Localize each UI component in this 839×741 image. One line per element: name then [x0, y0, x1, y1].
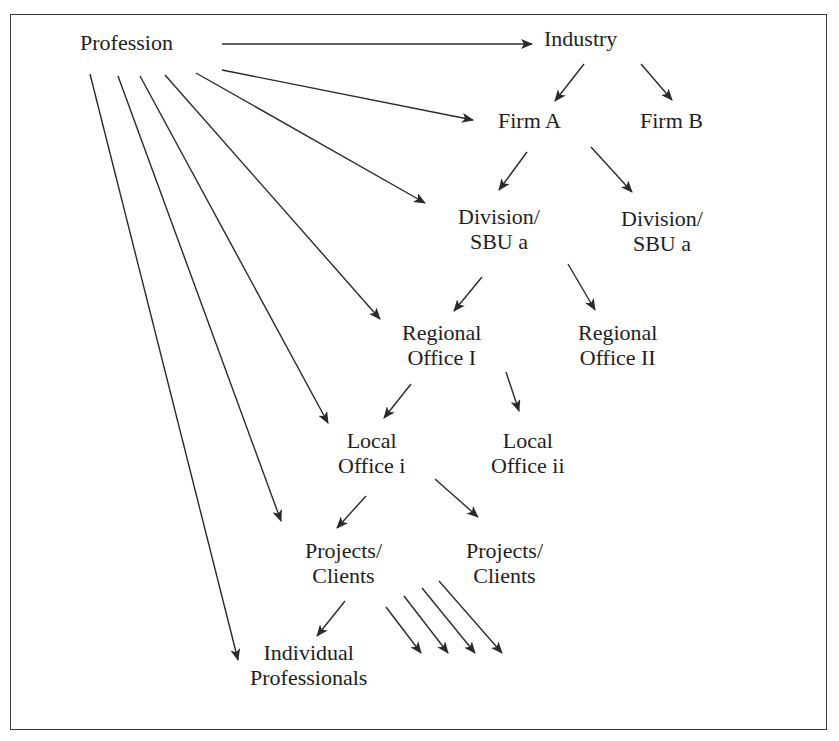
node-label-line1: Division/	[621, 206, 703, 231]
node-label-line2: Office I	[402, 345, 481, 370]
node-profession: Profession	[80, 30, 173, 55]
node-regional-office-2: Regional Office II	[578, 320, 657, 370]
arrow-profession-regional	[165, 75, 380, 319]
node-local-office-ii: Local Office ii	[491, 428, 565, 478]
arrow-industry-firm-a	[555, 64, 584, 101]
node-label-line1: Regional	[402, 320, 481, 345]
node-label-line1: Projects/	[305, 538, 382, 563]
node-firm-a: Firm A	[498, 108, 561, 133]
node-label-line1: Regional	[578, 320, 657, 345]
node-label-line2: Clients	[466, 563, 543, 588]
node-division-left: Division/ SBU a	[458, 204, 540, 254]
node-individual-professionals: Individual Professionals	[250, 640, 367, 690]
node-label-line1: Division/	[458, 204, 540, 229]
node-division-right: Division/ SBU a	[621, 206, 703, 256]
node-projects-left: Projects/ Clients	[305, 538, 382, 588]
node-regional-office-1: Regional Office I	[402, 320, 481, 370]
arrow-profession-firm-a	[222, 70, 473, 120]
node-industry: Industry	[544, 26, 617, 51]
node-label-line1: Projects/	[466, 538, 543, 563]
arrow-profession-division	[196, 73, 425, 203]
arrow-division-regional-2	[568, 264, 595, 310]
arrow-local-projects-left	[337, 496, 366, 528]
node-label: Firm B	[640, 108, 703, 133]
node-local-office-i: Local Office i	[338, 428, 405, 478]
arrow-regional-local-i	[384, 384, 411, 418]
node-label-line2: Office i	[338, 453, 405, 478]
arrow-projects-unlabeled-1	[386, 607, 421, 653]
arrow-local-projects-right	[435, 479, 478, 517]
arrow-industry-firm-b	[641, 64, 672, 100]
arrow-regional-local-ii	[506, 372, 519, 411]
arrow-profession-projects	[118, 76, 281, 521]
arrow-projects-unlabeled-3	[422, 588, 475, 653]
node-label: Industry	[544, 26, 617, 51]
arrow-firm-a-division-right	[591, 147, 632, 192]
node-label: Firm A	[498, 108, 561, 133]
arrow-division-regional-1	[454, 277, 482, 311]
node-label-line2: Clients	[305, 563, 382, 588]
node-label-line2: Office II	[578, 345, 657, 370]
arrow-profession-individual	[90, 74, 238, 660]
arrow-projects-individual	[317, 601, 345, 636]
node-label: Profession	[80, 30, 173, 55]
node-label-line2: Professionals	[250, 665, 367, 690]
node-projects-right: Projects/ Clients	[466, 538, 543, 588]
arrow-layer	[0, 0, 839, 741]
arrow-firm-a-division-left	[499, 152, 527, 190]
node-label-line2: SBU a	[621, 231, 703, 256]
node-label-line2: Office ii	[491, 453, 565, 478]
node-firm-b: Firm B	[640, 108, 703, 133]
node-label-line2: SBU a	[458, 229, 540, 254]
node-label-line1: Individual	[250, 640, 367, 665]
arrow-profession-local	[140, 76, 328, 423]
node-label-line1: Local	[338, 428, 405, 453]
node-label-line1: Local	[491, 428, 565, 453]
arrow-projects-unlabeled-2	[404, 596, 448, 653]
arrow-projects-unlabeled-4	[439, 581, 502, 653]
